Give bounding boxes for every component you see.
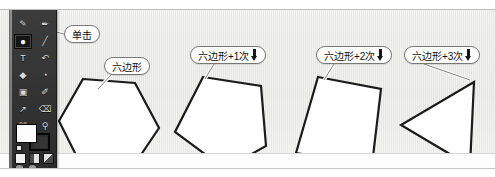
gradient-icon: ◆	[20, 71, 27, 80]
line-icon: ╱	[42, 37, 47, 46]
callout-hexagon-plus-1: 六边形+1次	[190, 46, 266, 64]
history-brush-icon: ↶	[41, 54, 49, 63]
jump-to-imageready-icon[interactable]	[15, 164, 24, 169]
mode-buttons	[15, 153, 55, 164]
callout-hexagon-plus-3: 六边形+3次	[404, 46, 480, 64]
tool-grid: ✎ ✒ ● ╱ T ↶ ◆	[12, 16, 56, 135]
callout-hexagon-plus-3-label: 六边形+3次	[412, 48, 463, 63]
callout-hexagon-label: 六边形	[112, 59, 142, 74]
eraser-tool[interactable]: ⌫	[34, 101, 56, 118]
history-brush-tool[interactable]: ↶	[34, 50, 56, 67]
eyedropper-icon: ✐	[41, 88, 49, 97]
palette-extra-icon[interactable]	[28, 164, 37, 169]
dodge-tool[interactable]: ◔	[34, 67, 56, 84]
photoshop-tool-palette[interactable]: ✎ ✒ ● ╱ T ↶ ◆	[9, 10, 57, 169]
standard-mode-button[interactable]	[15, 153, 26, 164]
image-editor-window: 单击 六边形 六边形+1次 六边形+2次 六边形+3次	[0, 9, 495, 169]
arrow-down-icon	[465, 49, 472, 62]
eyedropper-tool[interactable]: ✐	[34, 84, 56, 101]
reset-colors-icon[interactable]	[16, 145, 22, 151]
callout-hexagon: 六边形	[104, 57, 150, 75]
callout-click: 单击	[64, 25, 100, 43]
callout-hexagon-plus-2-label: 六边形+2次	[324, 48, 375, 63]
dodge-icon: ◔	[42, 71, 47, 80]
magic-wand-tool[interactable]: ✒	[34, 16, 56, 33]
arrow-down-icon	[251, 49, 258, 62]
screenshot-root: 单击 六边形 六边形+1次 六边形+2次 六边形+3次	[0, 0, 495, 177]
screen-mode-button[interactable]	[43, 153, 54, 164]
callout-click-label: 单击	[72, 27, 92, 42]
lasso-icon: ✎	[19, 20, 27, 29]
pen-tool[interactable]: ↗	[12, 101, 34, 118]
quick-mask-mode-button[interactable]	[29, 153, 40, 164]
gradient-tool[interactable]: ◆	[12, 67, 34, 84]
type-tool[interactable]: T	[12, 50, 34, 67]
rectangle-icon: ▣	[19, 88, 28, 97]
eraser-icon: ⌫	[39, 105, 52, 114]
magic-wand-icon: ✒	[41, 20, 49, 29]
pen-icon: ↗	[19, 105, 27, 114]
palette-footer	[15, 164, 55, 169]
ellipse-marquee-tool[interactable]: ●	[12, 33, 34, 50]
canvas-bottom-strip	[0, 153, 495, 168]
callout-hexagon-plus-2: 六边形+2次	[316, 46, 392, 64]
type-icon: T	[20, 54, 26, 63]
foreground-color-swatch[interactable]	[16, 124, 37, 143]
line-tool[interactable]: ╱	[34, 33, 56, 50]
ellipse-marquee-icon: ●	[20, 37, 26, 47]
rectangle-tool[interactable]: ▣	[12, 84, 34, 101]
top-cutoff-caption	[4, 0, 174, 6]
arrow-down-icon	[377, 49, 384, 62]
callout-hexagon-plus-1-label: 六边形+1次	[198, 48, 249, 63]
color-swatches[interactable]	[16, 124, 52, 150]
lasso-tool[interactable]: ✎	[12, 16, 34, 33]
